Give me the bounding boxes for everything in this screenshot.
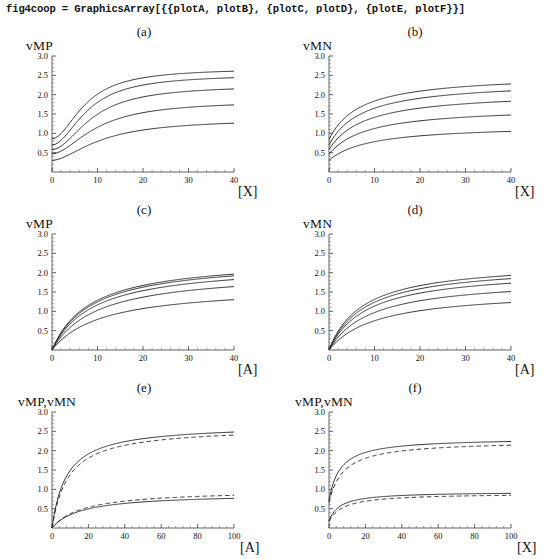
plot-area-f: 0.51.01.52.02.53.0020406080100: [329, 412, 511, 528]
svg-text:2.5: 2.5: [37, 426, 48, 436]
plot-area-c: 0.51.01.52.02.53.0010203040: [52, 234, 234, 350]
x-axis-label-f: [X]: [517, 540, 536, 556]
svg-text:20: 20: [139, 353, 148, 363]
svg-text:0.5: 0.5: [37, 504, 48, 514]
plot-panel-d: (d) vMN 0.51.01.52.02.53.0010203040 [A]: [277, 202, 553, 380]
svg-text:3.0: 3.0: [314, 407, 325, 417]
plot-panel-c: (c) vMP 0.51.01.52.02.53.0010203040 [A]: [0, 202, 276, 380]
svg-text:0.5: 0.5: [314, 326, 325, 336]
svg-text:2.0: 2.0: [314, 446, 325, 456]
x-axis-label-c: [A]: [238, 362, 257, 378]
svg-text:1.0: 1.0: [37, 484, 48, 494]
svg-text:1.5: 1.5: [37, 465, 48, 475]
svg-text:100: 100: [505, 531, 518, 541]
svg-text:0: 0: [327, 175, 331, 185]
svg-text:0: 0: [50, 175, 54, 185]
svg-text:0: 0: [327, 353, 331, 363]
svg-text:20: 20: [416, 175, 425, 185]
svg-text:40: 40: [230, 353, 239, 363]
svg-text:10: 10: [370, 353, 379, 363]
svg-text:20: 20: [361, 531, 370, 541]
svg-text:20: 20: [84, 531, 93, 541]
graphics-array-grid: (a) vMP 0.51.01.52.02.53.0010203040 [X] …: [0, 24, 553, 559]
x-axis-label-e: [A]: [240, 540, 259, 556]
svg-text:30: 30: [184, 175, 193, 185]
svg-text:100: 100: [228, 531, 241, 541]
svg-text:40: 40: [507, 175, 516, 185]
svg-text:2.5: 2.5: [314, 426, 325, 436]
svg-text:2.0: 2.0: [37, 446, 48, 456]
svg-text:40: 40: [121, 531, 130, 541]
plot-area-d: 0.51.01.52.02.53.0010203040: [329, 234, 511, 350]
svg-text:2.0: 2.0: [37, 90, 48, 100]
plot-svg-b: 0.51.01.52.02.53.0010203040: [329, 56, 553, 196]
svg-text:1.5: 1.5: [314, 465, 325, 475]
svg-text:1.0: 1.0: [37, 306, 48, 316]
svg-text:2.0: 2.0: [37, 268, 48, 278]
plot-panel-e: (e) vMP,vMN 0.51.01.52.02.53.00204060801…: [0, 380, 276, 558]
svg-text:40: 40: [398, 531, 407, 541]
svg-text:0: 0: [50, 353, 54, 363]
svg-text:10: 10: [93, 353, 102, 363]
plot-panel-b: (b) vMN 0.51.01.52.02.53.0010203040 [X]: [277, 24, 553, 202]
svg-text:0: 0: [50, 531, 54, 541]
svg-text:80: 80: [470, 531, 479, 541]
svg-text:60: 60: [434, 531, 443, 541]
svg-text:1.0: 1.0: [314, 128, 325, 138]
svg-text:3.0: 3.0: [37, 229, 48, 239]
svg-text:3.0: 3.0: [314, 51, 325, 61]
plot-panel-f: (f) vMP,vMN 0.51.01.52.02.53.00204060801…: [277, 380, 553, 558]
svg-text:60: 60: [157, 531, 166, 541]
svg-text:1.5: 1.5: [37, 287, 48, 297]
mathematica-code-header: fig4coop = GraphicsArray[{{plotA, plotB}…: [6, 3, 465, 15]
plot-panel-a: (a) vMP 0.51.01.52.02.53.0010203040 [X]: [0, 24, 276, 202]
plot-svg-e: 0.51.01.52.02.53.0020406080100: [52, 412, 282, 552]
svg-text:40: 40: [230, 175, 239, 185]
svg-text:1.0: 1.0: [314, 306, 325, 316]
svg-text:2.5: 2.5: [314, 70, 325, 80]
svg-text:1.0: 1.0: [314, 484, 325, 494]
plot-svg-d: 0.51.01.52.02.53.0010203040: [329, 234, 553, 374]
plot-svg-a: 0.51.01.52.02.53.0010203040: [52, 56, 282, 196]
svg-text:40: 40: [507, 353, 516, 363]
svg-text:1.5: 1.5: [314, 109, 325, 119]
svg-text:20: 20: [416, 353, 425, 363]
plot-area-e: 0.51.01.52.02.53.0020406080100: [52, 412, 234, 528]
plot-area-a: 0.51.01.52.02.53.0010203040: [52, 56, 234, 172]
svg-text:3.0: 3.0: [314, 229, 325, 239]
x-axis-label-d: [A]: [515, 362, 534, 378]
svg-text:0.5: 0.5: [37, 148, 48, 158]
svg-text:2.5: 2.5: [37, 70, 48, 80]
svg-text:10: 10: [370, 175, 379, 185]
svg-text:0.5: 0.5: [314, 148, 325, 158]
svg-text:2.5: 2.5: [37, 248, 48, 258]
plot-svg-c: 0.51.01.52.02.53.0010203040: [52, 234, 282, 374]
svg-text:2.0: 2.0: [314, 268, 325, 278]
svg-text:30: 30: [184, 353, 193, 363]
svg-text:2.5: 2.5: [314, 248, 325, 258]
svg-text:1.5: 1.5: [314, 287, 325, 297]
x-axis-label-a: [X]: [238, 184, 257, 200]
svg-text:80: 80: [193, 531, 202, 541]
svg-text:30: 30: [461, 353, 470, 363]
svg-text:3.0: 3.0: [37, 51, 48, 61]
svg-text:1.0: 1.0: [37, 128, 48, 138]
svg-text:1.5: 1.5: [37, 109, 48, 119]
svg-text:10: 10: [93, 175, 102, 185]
svg-text:30: 30: [461, 175, 470, 185]
svg-text:0.5: 0.5: [314, 504, 325, 514]
x-axis-label-b: [X]: [515, 184, 534, 200]
svg-text:3.0: 3.0: [37, 407, 48, 417]
svg-text:20: 20: [139, 175, 148, 185]
plot-svg-f: 0.51.01.52.02.53.0020406080100: [329, 412, 553, 552]
plot-area-b: 0.51.01.52.02.53.0010203040: [329, 56, 511, 172]
svg-text:2.0: 2.0: [314, 90, 325, 100]
svg-text:0.5: 0.5: [37, 326, 48, 336]
svg-text:0: 0: [327, 531, 331, 541]
